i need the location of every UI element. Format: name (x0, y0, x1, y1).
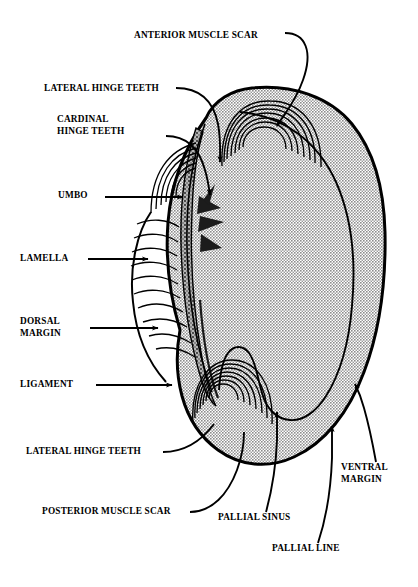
label-umbo: UMBO (58, 190, 88, 202)
leader-pallial-line (318, 426, 332, 543)
label-ventral-margin: VENTRAL MARGIN (341, 462, 388, 485)
label-pallial-line: PALLIAL LINE (272, 543, 340, 555)
label-cardinal-hinge-teeth: CARDINAL HINGE TEETH (57, 114, 124, 137)
label-lateral-hinge-teeth-top: LATERAL HINGE TEETH (44, 83, 159, 95)
label-lateral-hinge-teeth-bottom: LATERAL HINGE TEETH (26, 446, 141, 458)
shell-body (131, 87, 385, 464)
label-ligament: LIGAMENT (20, 379, 73, 391)
label-lamella: LAMELLA (20, 253, 68, 265)
label-posterior-muscle-scar: POSTERIOR MUSCLE SCAR (42, 506, 171, 518)
label-dorsal-margin: DORSAL MARGIN (20, 316, 61, 339)
label-pallial-sinus: PALLIAL SINUS (218, 512, 290, 524)
label-anterior-muscle-scar: ANTERIOR MUSCLE SCAR (134, 30, 258, 42)
leader-ventral-margin (355, 384, 376, 462)
